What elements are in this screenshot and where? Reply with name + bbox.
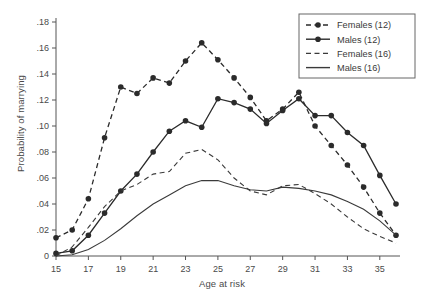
- legend-label: Males (16): [337, 63, 380, 73]
- chart-svg: 0.02.04.06.08.10.12.14.16.18 15171921232…: [0, 0, 424, 298]
- x-tick-label: 25: [213, 264, 223, 274]
- data-point: [345, 130, 351, 136]
- data-point: [312, 123, 318, 129]
- data-point: [183, 58, 189, 64]
- series-2: [53, 96, 399, 256]
- x-tick-label: 27: [245, 264, 255, 274]
- legend-marker: [315, 22, 321, 28]
- data-point: [86, 232, 92, 238]
- y-tick-label: .12: [36, 95, 49, 105]
- legend-label: Females (12): [337, 20, 391, 30]
- x-tick-label: 33: [342, 264, 352, 274]
- data-point: [328, 143, 334, 149]
- data-point: [69, 227, 75, 233]
- data-point: [361, 184, 367, 190]
- chart-legend: Females (12)Males (12)Females (16)Males …: [299, 14, 415, 78]
- data-point: [150, 75, 156, 81]
- data-point: [118, 84, 124, 90]
- data-point: [215, 96, 221, 102]
- data-point: [102, 135, 108, 141]
- data-point: [377, 173, 383, 179]
- y-tick-label: .06: [36, 173, 49, 183]
- y-axis: 0.02.04.06.08.10.12.14.16.18: [36, 17, 56, 261]
- data-point: [167, 128, 173, 134]
- data-point: [199, 40, 205, 46]
- data-point: [102, 210, 108, 216]
- data-point: [312, 113, 318, 119]
- y-tick-label: .02: [36, 225, 49, 235]
- data-point: [328, 113, 334, 119]
- x-axis: 1517192123252729313335: [51, 256, 400, 274]
- y-tick-label: .18: [36, 17, 49, 27]
- x-tick-label: 17: [83, 264, 93, 274]
- data-point: [296, 96, 302, 102]
- x-tick-label: 29: [278, 264, 288, 274]
- data-point: [393, 201, 399, 207]
- x-tick-label: 31: [310, 264, 320, 274]
- x-tick-group: 1517192123252729313335: [51, 256, 385, 274]
- data-point: [231, 100, 237, 106]
- legend-label: Males (12): [337, 35, 380, 45]
- data-point: [199, 125, 205, 131]
- x-tick-label: 15: [51, 264, 61, 274]
- y-tick-label: .14: [36, 69, 49, 79]
- y-axis-label: Probability of marrying: [15, 34, 26, 214]
- data-point: [53, 235, 59, 241]
- x-tick-label: 21: [148, 264, 158, 274]
- y-tick-label: .04: [36, 199, 49, 209]
- data-point: [134, 91, 140, 97]
- x-axis-label: Age at risk: [56, 278, 388, 289]
- x-tick-label: 35: [375, 264, 385, 274]
- data-point: [150, 149, 156, 155]
- data-point: [167, 80, 173, 86]
- y-tick-label: .10: [36, 121, 49, 131]
- data-point: [361, 143, 367, 149]
- data-point: [264, 121, 270, 127]
- chart-container: 0.02.04.06.08.10.12.14.16.18 15171921232…: [0, 0, 424, 298]
- data-point: [345, 162, 351, 168]
- legend-marker: [315, 36, 321, 42]
- data-point: [280, 108, 286, 114]
- data-point: [215, 57, 221, 63]
- data-point: [69, 248, 75, 254]
- series-line: [56, 99, 396, 254]
- data-point: [377, 210, 383, 216]
- series-line: [56, 181, 396, 256]
- legend-label: Females (16): [337, 49, 391, 59]
- y-tick-group: 0.02.04.06.08.10.12.14.16.18: [36, 17, 56, 261]
- data-point: [86, 196, 92, 202]
- y-tick-label: .08: [36, 147, 49, 157]
- x-tick-label: 23: [181, 264, 191, 274]
- data-point: [296, 89, 302, 95]
- data-point: [247, 95, 253, 101]
- y-tick-label: .16: [36, 43, 49, 53]
- series-4: [56, 181, 396, 256]
- x-tick-label: 19: [116, 264, 126, 274]
- y-tick-label: 0: [44, 251, 49, 261]
- data-point: [231, 75, 237, 81]
- data-point: [247, 106, 253, 112]
- data-point: [183, 118, 189, 124]
- data-point: [134, 171, 140, 177]
